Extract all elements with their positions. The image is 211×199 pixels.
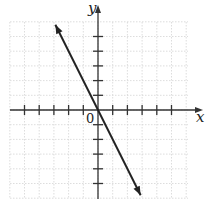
x-axis-label: x bbox=[196, 108, 204, 126]
origin-label: 0 bbox=[86, 111, 94, 126]
coordinate-plane bbox=[0, 0, 211, 199]
y-axis-label: y bbox=[88, 0, 96, 17]
